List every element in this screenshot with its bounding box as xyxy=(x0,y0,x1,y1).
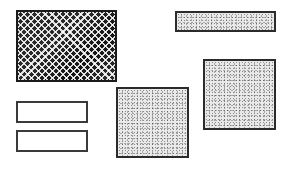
stippled-square-right xyxy=(203,59,276,130)
crosshatched-rectangle xyxy=(16,10,117,82)
stippled-square-middle xyxy=(116,87,189,158)
stippled-bar-top-right xyxy=(175,11,276,32)
empty-rectangle-upper xyxy=(16,101,88,123)
diagram-canvas xyxy=(0,0,293,175)
empty-rectangle-lower xyxy=(16,130,88,152)
